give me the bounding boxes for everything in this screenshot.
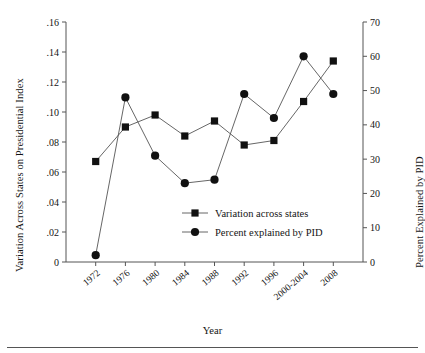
y-axis-left-tick-label: .02	[47, 227, 60, 238]
y-axis-right-tick-label: 70	[370, 17, 380, 28]
y-axis-right-tick-label: 40	[370, 119, 380, 130]
y-axis-left-tick-label: .16	[47, 17, 60, 28]
y-axis-right-tick-label: 0	[370, 257, 375, 268]
y-axis-left-tick-label: .10	[47, 107, 60, 118]
y-axis-left-tick-label: .14	[47, 47, 60, 58]
data-point-marker-square	[92, 158, 99, 165]
x-axis-tick-label: 1992	[230, 268, 251, 288]
y-axis-right-tick-label: 60	[370, 51, 380, 62]
data-point-marker-square	[211, 117, 218, 124]
x-axis-tick-label: 2008	[319, 268, 340, 288]
x-axis-tick-label: 1984	[170, 268, 191, 288]
y-axis-right-tick-label: 10	[370, 222, 380, 233]
data-point-marker-square	[270, 137, 277, 144]
data-point-marker-square	[300, 98, 307, 105]
data-point-marker-circle	[181, 179, 189, 187]
data-point-marker-circle	[151, 152, 159, 160]
data-point-marker-circle	[121, 93, 129, 101]
data-point-marker-circle	[300, 52, 308, 60]
data-point-marker-circle	[210, 176, 218, 184]
y-axis-left-tick-label: .12	[47, 77, 60, 88]
y-axis-right-tick-label: 30	[370, 154, 380, 165]
x-axis-tick-label: 1972	[81, 268, 102, 288]
y-axis-left-tick-label: .08	[47, 137, 60, 148]
x-axis-tick-label: 1996	[259, 268, 280, 288]
x-axis-tick-label: 1988	[200, 268, 221, 288]
y-axis-left-tick-label: 0	[54, 257, 59, 268]
footer-divider	[7, 347, 418, 348]
legend-label: Percent explained by PID	[215, 227, 323, 238]
y-axis-right-tick-label: 50	[370, 85, 380, 96]
data-point-marker-square	[152, 111, 159, 118]
data-point-marker-square	[330, 57, 337, 64]
chart-plot-area: 0.02.04.06.08.10.12.14.16010203040506070…	[0, 0, 425, 353]
data-point-marker-circle	[329, 90, 337, 98]
x-axis-tick-label: 1980	[140, 268, 161, 288]
y-axis-right-title: Percent Explained by PID	[414, 156, 425, 268]
y-axis-left-title: Variation Across States on Presidential …	[14, 78, 25, 272]
data-point-marker-circle	[92, 251, 100, 259]
series-line-2	[96, 56, 334, 255]
data-point-marker-square	[241, 141, 248, 148]
legend-marker-square	[191, 209, 198, 216]
y-axis-left-tick-label: .04	[47, 197, 60, 208]
x-axis-tick-label: 1976	[111, 268, 132, 288]
data-point-marker-circle	[270, 114, 278, 122]
y-axis-right-tick-label: 20	[370, 188, 380, 199]
legend-label: Variation across states	[215, 208, 308, 219]
series-line-1	[96, 61, 334, 162]
data-point-marker-circle	[240, 90, 248, 98]
data-point-marker-square	[122, 123, 129, 130]
y-axis-left-tick-label: .06	[47, 167, 60, 178]
legend-marker-circle	[191, 228, 199, 236]
figure-container: Variation Across States on Presidential …	[0, 0, 425, 353]
data-point-marker-square	[181, 132, 188, 139]
x-axis-title: Year	[0, 325, 425, 336]
